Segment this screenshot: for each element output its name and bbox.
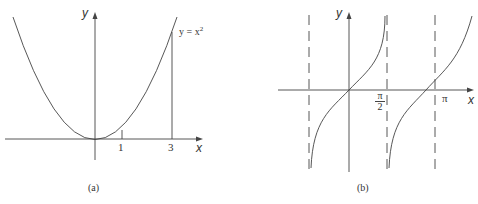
figure xyxy=(0,0,478,204)
tick-label-pi: π xyxy=(442,92,448,104)
plot-a xyxy=(5,12,203,160)
curve-label-text: y = x xyxy=(179,26,200,37)
x-axis-arrow-icon xyxy=(467,88,474,93)
x-axis-label-a: x xyxy=(196,141,202,155)
tan-branch-2 xyxy=(389,16,472,168)
y-axis-arrow-icon xyxy=(347,12,352,19)
tan-branch-1 xyxy=(311,16,385,168)
curve-label-a: y = x2 xyxy=(179,25,203,37)
caption-b: (b) xyxy=(357,182,369,193)
y-axis-label-a: y xyxy=(82,6,88,20)
caption-a: (a) xyxy=(88,182,99,193)
y-axis-label-b: y xyxy=(336,6,342,20)
tick-label-pi-half: π 2 xyxy=(375,91,385,112)
tick-label-1: 1 xyxy=(118,141,124,153)
pi-denominator: 2 xyxy=(375,102,385,112)
tick-label-3: 3 xyxy=(168,141,174,153)
curve-label-exponent: 2 xyxy=(200,25,204,33)
y-axis-arrow-icon xyxy=(93,12,98,19)
x-axis-label-b: x xyxy=(468,93,474,107)
